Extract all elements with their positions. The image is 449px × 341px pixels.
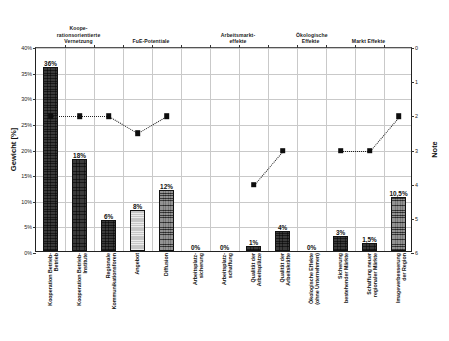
y-axis-tick-label-right: 5 xyxy=(415,216,418,222)
bar-value-label: 0% xyxy=(307,244,316,251)
bar xyxy=(246,246,261,251)
y-axis-tick-label-left: 10% xyxy=(21,199,32,205)
bar xyxy=(159,190,174,252)
note-marker xyxy=(251,182,257,188)
y-axis-tick-left xyxy=(33,48,36,49)
note-marker xyxy=(77,114,83,120)
gridline-vertical xyxy=(355,48,356,251)
note-connector-line xyxy=(341,151,370,152)
y-axis-tick-left xyxy=(33,202,36,203)
y-axis-tick-left xyxy=(33,227,36,228)
gridline-vertical xyxy=(384,48,385,251)
y-axis-tick-label-left: 20% xyxy=(21,148,32,154)
top-axis-tick xyxy=(239,45,240,48)
y-axis-tick-left xyxy=(33,151,36,152)
note-connector-line xyxy=(80,116,109,117)
x-axis-category-labels: Kooperation Betrieb- BetriebKooperation … xyxy=(35,253,412,341)
bar-value-label: 0% xyxy=(220,244,229,251)
y-axis-tick-label-left: 35% xyxy=(21,71,32,77)
note-marker xyxy=(164,114,170,120)
y-axis-tick-label-right: 1 xyxy=(415,79,418,85)
y-axis-tick-label-right: 0 xyxy=(415,45,418,51)
bar-value-label: 1,5% xyxy=(362,236,377,243)
x-axis-category-label: Sicherung bestehender Märkte xyxy=(337,253,349,341)
x-axis-category-label: Arbeitsplatz- schaffung xyxy=(221,253,233,341)
x-axis-category-label: Kooperation Betrieb- Institute xyxy=(76,253,88,341)
x-axis-category-label: Kooperation Betrieb- Betrieb xyxy=(47,253,59,341)
y-axis-tick-label-left: 0% xyxy=(24,250,32,256)
gridline-vertical xyxy=(268,48,269,251)
group-header-label: ÖkologischeEffekte xyxy=(296,32,325,44)
x-axis-category-label: Regionale Kommunikationsforen xyxy=(105,253,117,341)
gridline-vertical xyxy=(65,48,66,251)
note-marker xyxy=(106,114,112,120)
y-axis-tick-left xyxy=(33,125,36,126)
y-axis-tick-label-right: 2 xyxy=(415,113,418,119)
y-axis-title-left-text: Gewicht [%] xyxy=(10,128,19,171)
y-axis-tick-left xyxy=(33,74,36,75)
top-axis-tick xyxy=(210,45,211,48)
top-axis-tick xyxy=(326,45,327,48)
bar-value-label: 12% xyxy=(160,183,173,190)
x-axis-category-label: Imageverbesserung der Region xyxy=(395,253,407,341)
gridline-vertical xyxy=(210,48,211,251)
y-axis-tick-label-right: 3 xyxy=(415,148,418,154)
y-axis-tick-right xyxy=(411,185,414,186)
bar xyxy=(130,210,145,251)
x-axis-category-label: Ökologische Effekte (ohne Unternehmen) xyxy=(308,253,320,341)
y-axis-tick-right xyxy=(411,151,414,152)
group-header-label: FuE-Potentiale xyxy=(122,38,180,44)
x-axis-category-label: Qualität der Arbeitsplätze xyxy=(250,253,262,341)
note-marker xyxy=(280,148,286,154)
bar xyxy=(275,231,290,252)
bar-value-label: 8% xyxy=(133,203,142,210)
bar xyxy=(333,236,348,251)
gridline-vertical xyxy=(152,48,153,251)
gridline-vertical xyxy=(123,48,124,251)
note-marker xyxy=(396,114,402,120)
gridline-vertical xyxy=(239,48,240,251)
x-axis-category-label: Angebot xyxy=(134,253,140,341)
x-axis-category-label: Arbeitsplatz- sicherung xyxy=(192,253,204,341)
bar-value-label: 1% xyxy=(249,239,258,246)
x-axis-category-label: Qualität der Arbeitskräfte xyxy=(279,253,291,341)
y-axis-tick-right xyxy=(411,82,414,83)
y-axis-title-right: Note xyxy=(428,47,440,252)
bar-value-label: 0% xyxy=(191,244,200,251)
y-axis-tick-label-left: 25% xyxy=(21,122,32,128)
top-axis-tick xyxy=(94,45,95,48)
top-axis-tick xyxy=(297,45,298,48)
bar xyxy=(362,243,377,251)
y-axis-tick-right xyxy=(411,48,414,49)
y-axis-title-left: Gewicht [%] xyxy=(8,47,20,252)
bar-value-label: 10,5% xyxy=(389,190,407,197)
chart-root: Koope-rationsorientierteVernetzungFuE-Po… xyxy=(0,0,449,341)
note-connector-line xyxy=(51,116,80,117)
bar-value-label: 4% xyxy=(278,224,287,231)
y-axis-title-right-text: Note xyxy=(430,141,439,157)
note-marker xyxy=(48,114,54,120)
y-axis-tick-right xyxy=(411,116,414,117)
group-header-label: Koope-rationsorientierteVernetzung xyxy=(35,25,122,44)
bar xyxy=(391,197,406,251)
top-axis-tick xyxy=(152,45,153,48)
bar-value-label: 6% xyxy=(104,213,113,220)
top-axis-tick xyxy=(123,45,124,48)
x-axis-category-label: Diffusion xyxy=(163,253,169,341)
gridline-vertical xyxy=(94,48,95,251)
bar-value-label: 36% xyxy=(44,60,57,67)
y-axis-tick-label-left: 40% xyxy=(21,45,32,51)
group-header-label: Arbeitsmarkt-effekte xyxy=(180,32,296,44)
gridline-vertical xyxy=(326,48,327,251)
bar-value-label: 18% xyxy=(73,152,86,159)
bar xyxy=(43,67,58,252)
top-axis-tick xyxy=(355,45,356,48)
gridline-vertical xyxy=(297,48,298,251)
bar-value-label: 3% xyxy=(336,229,345,236)
plot-area: 0%5%10%15%20%25%30%35%40%012345636%18%6%… xyxy=(35,47,412,252)
group-header-band: Koope-rationsorientierteVernetzungFuE-Po… xyxy=(0,0,449,46)
x-axis-category-label: Schaffung neuer regionaler Märkte xyxy=(366,253,378,341)
y-axis-tick-left xyxy=(33,99,36,100)
bar xyxy=(101,220,116,251)
y-axis-tick-label-right: 4 xyxy=(415,182,418,188)
